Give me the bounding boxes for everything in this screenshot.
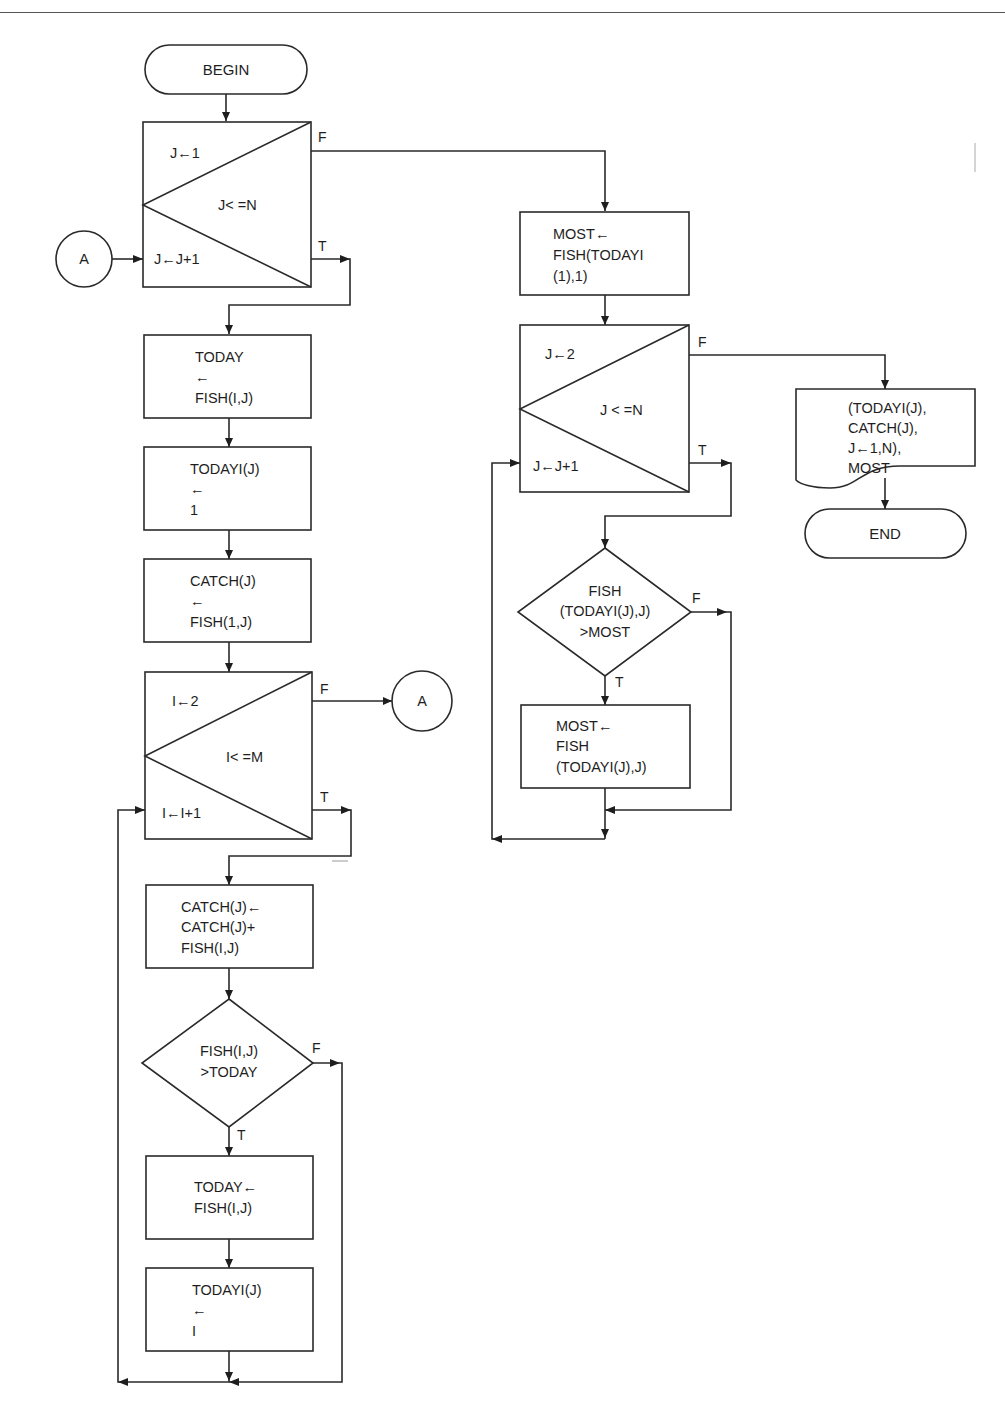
svg-text:TODAY←: TODAY← — [194, 1179, 257, 1195]
process-catch-accumulate: CATCH(J)← CATCH(J)+ FISH(I,J) — [146, 885, 313, 968]
loop-j2-init: J←2 — [545, 346, 575, 362]
false-label: F — [320, 681, 329, 697]
process-today-init: TODAY ← FISH(I,J) — [144, 335, 311, 418]
loop-j2-condition: J < =N — [600, 402, 643, 418]
svg-text:A: A — [417, 693, 427, 709]
svg-text:I: I — [192, 1323, 196, 1339]
loop-i-increment: I←I+1 — [162, 805, 201, 821]
svg-text:TODAYI(J): TODAYI(J) — [190, 461, 260, 477]
begin-label: BEGIN — [203, 61, 250, 78]
svg-text:FISH(I,J): FISH(I,J) — [181, 940, 239, 956]
loop-j-condition: J< =N — [218, 197, 257, 213]
true-label: T — [320, 789, 329, 805]
flowchart: BEGIN J←1 J< =N J←J+1 F T A TODAY ← FISH… — [0, 0, 1005, 1419]
arrow-icon — [225, 325, 233, 334]
svg-text:←: ← — [190, 593, 205, 609]
arrow-icon — [492, 835, 502, 843]
svg-text:MOST←: MOST← — [556, 718, 612, 734]
loop-j2-increment: J←J+1 — [533, 458, 579, 474]
arrow-icon — [601, 316, 609, 325]
connector-a-out: A — [392, 671, 452, 731]
arrow-icon — [225, 663, 233, 672]
svg-text:>MOST: >MOST — [580, 624, 630, 640]
connector-a-in: A — [56, 231, 112, 287]
svg-text:(1),1): (1),1) — [553, 268, 588, 284]
end-terminal: END — [805, 509, 966, 558]
false-label: F — [698, 334, 707, 350]
false-label: F — [318, 129, 327, 145]
process-todayi-update: TODAYI(J) ← I — [146, 1268, 313, 1351]
process-todayi-init: TODAYI(J) ← 1 — [144, 447, 311, 530]
true-label: T — [698, 442, 707, 458]
arrow-icon — [881, 380, 889, 389]
svg-text:CATCH(J): CATCH(J) — [190, 573, 256, 589]
svg-text:(TODAYI(J),J): (TODAYI(J),J) — [556, 759, 646, 775]
decision-fish-gt-most: FISH (TODAYI(J),J) >MOST F T — [518, 548, 701, 690]
arrow-icon — [510, 459, 520, 467]
arrow-icon — [330, 1059, 340, 1067]
arrow-icon — [225, 1147, 233, 1156]
svg-text:FISH: FISH — [588, 583, 621, 599]
arrow-icon — [225, 550, 233, 559]
arrow-icon — [601, 539, 609, 548]
arrow-icon — [225, 876, 233, 885]
arrow-icon — [229, 1378, 239, 1386]
process-today-update: TODAY← FISH(I,J) — [146, 1156, 313, 1239]
arrow-icon — [222, 112, 230, 121]
loop-j-max: J←2 J < =N J←J+1 F T — [520, 325, 707, 492]
true-label: T — [237, 1127, 246, 1143]
arrow-icon — [601, 829, 609, 838]
false-label: F — [312, 1040, 321, 1056]
svg-text:FISH(I,J): FISH(I,J) — [195, 390, 253, 406]
svg-text:TODAYI(J): TODAYI(J) — [192, 1282, 262, 1298]
svg-text:(TODAYI(J),: (TODAYI(J), — [848, 400, 926, 416]
svg-text:←: ← — [190, 481, 205, 497]
arrow-icon — [717, 608, 727, 616]
svg-text:(TODAYI(J),J): (TODAYI(J),J) — [560, 603, 650, 619]
loop-i-init: I←2 — [172, 693, 199, 709]
begin-terminal: BEGIN — [145, 45, 307, 94]
svg-text:MOST: MOST — [848, 460, 890, 476]
true-label: T — [318, 238, 327, 254]
loop-j-outer: J←1 J< =N J←J+1 F T — [143, 122, 327, 287]
svg-text:>TODAY: >TODAY — [200, 1064, 257, 1080]
arrow-icon — [881, 500, 889, 509]
arrow-icon — [135, 806, 145, 814]
arrow-icon — [721, 459, 731, 467]
svg-text:A: A — [79, 251, 89, 267]
loop-i-condition: I< =M — [226, 749, 263, 765]
svg-text:CATCH(J),: CATCH(J), — [848, 420, 918, 436]
arrow-icon — [383, 697, 392, 705]
arrow-icon — [118, 1378, 128, 1386]
true-label: T — [615, 674, 624, 690]
svg-text:FISH(I,J): FISH(I,J) — [200, 1043, 258, 1059]
process-catch-init: CATCH(J) ← FISH(1,J) — [144, 559, 311, 642]
arrow-icon — [225, 438, 233, 447]
arrow-icon — [341, 806, 351, 814]
process-most-init: MOST← FISH(TODAYI (1),1) — [520, 212, 689, 295]
svg-text:TODAY: TODAY — [195, 349, 244, 365]
arrow-icon — [340, 255, 350, 263]
arrow-icon — [225, 1259, 233, 1268]
loop-j-increment: J←J+1 — [154, 251, 200, 267]
svg-text:FISH(1,J): FISH(1,J) — [190, 614, 252, 630]
arrow-icon — [605, 806, 615, 814]
svg-text:MOST←: MOST← — [553, 226, 609, 242]
arrow-icon — [601, 696, 609, 705]
arrow-icon — [225, 1372, 233, 1381]
svg-text:←: ← — [192, 1302, 207, 1318]
svg-text:FISH: FISH — [556, 738, 589, 754]
false-label: F — [692, 590, 701, 606]
arrow-icon — [601, 202, 609, 211]
svg-text:←: ← — [195, 369, 210, 385]
end-label: END — [869, 525, 901, 542]
svg-text:J←1,N),: J←1,N), — [848, 440, 901, 456]
process-most-update: MOST← FISH (TODAYI(J),J) — [521, 705, 690, 788]
svg-text:CATCH(J)←: CATCH(J)← — [181, 899, 261, 915]
svg-text:CATCH(J)+: CATCH(J)+ — [181, 919, 255, 935]
svg-text:1: 1 — [190, 502, 198, 518]
svg-text:FISH(TODAYI: FISH(TODAYI — [553, 247, 644, 263]
arrow-icon — [133, 255, 143, 263]
loop-i-inner: I←2 I< =M I←I+1 F T — [145, 672, 329, 839]
decision-fish-gt-today: FISH(I,J) >TODAY F T — [142, 999, 321, 1143]
